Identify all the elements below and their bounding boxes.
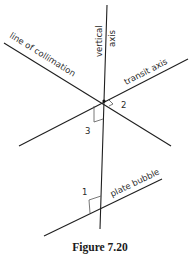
right-angle-marker-3 — [94, 106, 103, 122]
transit-axis-label: transit axis — [122, 56, 169, 87]
right-angle-marker-2 — [108, 99, 113, 106]
plate-bubble-label: plate bubble — [109, 167, 161, 199]
angle-label-2: 2 — [121, 100, 126, 110]
theodolite-axes-diagram: vertical axis line of collimation transi… — [0, 0, 191, 255]
line-of-collimation-label: line of collimation — [8, 30, 78, 78]
right-angle-marker-1 — [89, 196, 101, 213]
intersection-point — [102, 99, 105, 102]
vertical-axis-label-2: axis — [107, 29, 117, 47]
plate-bubble-line — [44, 179, 162, 236]
angle-label-3: 3 — [85, 126, 90, 136]
angle-label-1: 1 — [82, 187, 87, 197]
vertical-axis-label-1: vertical — [94, 25, 104, 57]
figure-caption: Figure 7.20 — [72, 241, 128, 254]
